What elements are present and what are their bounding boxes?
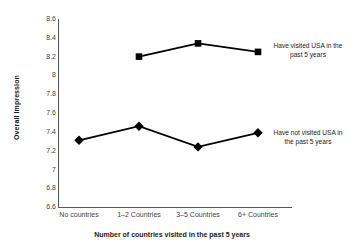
x-tick-label-6plus-countries: 6+ Countries [238,211,278,218]
x-tick-label-3-5-countries: 3–5 Countries [176,211,220,218]
series-label-not-visited: Have not visited USA in the past 5 years [262,129,354,146]
x-axis-tick-labels: No countries 1–2 Countries 3–5 Countries… [0,0,360,247]
x-tick-label-no-countries: No countries [59,211,98,218]
series-label-visited: Have visited USA in the past 5 years [262,42,354,59]
series-label-not-visited-line1: Have not visited USA in [274,129,343,136]
series-label-visited-line2: past 5 years [290,51,326,58]
x-tick-label-1-2-countries: 1–2 Countries [117,211,161,218]
chart-figure: Overall Impression 8.6 8.4 8.2 8 7.8 7.6… [0,0,360,247]
series-label-not-visited-line2: the past 5 years [285,138,332,145]
x-axis-title: Number of countries visited in the past … [56,231,288,238]
series-label-visited-line1: Have visited USA in the [274,42,343,49]
